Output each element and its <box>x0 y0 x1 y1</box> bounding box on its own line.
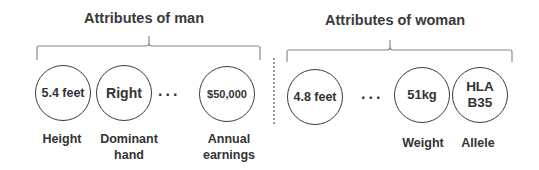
attr-value: 51kg <box>407 88 437 103</box>
label-annual-earnings: Annual earnings <box>189 131 269 164</box>
attr-height-woman: 4.8 feet <box>287 69 343 125</box>
brace-woman <box>287 40 512 62</box>
brace-man <box>37 36 260 60</box>
title-woman: Attributes of woman <box>325 12 465 28</box>
label-dominant-hand: Dominant hand <box>89 131 169 164</box>
attr-weight: 51kg <box>394 67 450 123</box>
title-man: Attributes of man <box>84 10 204 26</box>
attr-height-man: 5.4 feet <box>35 65 91 121</box>
attr-dominant-hand: Right <box>96 65 152 121</box>
label-line: Dominant <box>89 131 169 147</box>
attr-value: 4.8 feet <box>293 90 336 104</box>
label-line: Annual <box>189 131 269 147</box>
attr-value: $50,000 <box>207 88 247 101</box>
label-allele: Allele <box>438 135 518 151</box>
label-line: hand <box>89 147 169 163</box>
attr-value-line: B35 <box>468 95 493 111</box>
attr-value: Right <box>106 85 142 101</box>
attr-value: 5.4 feet <box>41 86 84 100</box>
attr-annual-earnings: $50,000 <box>199 66 255 122</box>
ellipsis-woman: ... <box>361 85 383 103</box>
label-line: earnings <box>189 147 269 163</box>
attr-allele: HLA B35 <box>452 67 508 123</box>
attr-value-line: HLA <box>466 79 494 95</box>
ellipsis-man: ... <box>158 82 180 100</box>
